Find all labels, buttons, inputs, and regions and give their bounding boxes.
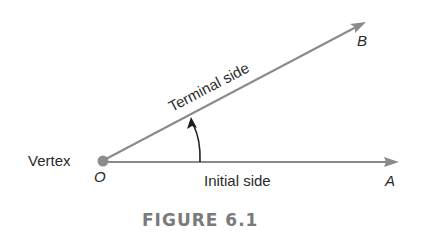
terminal-point-label: B xyxy=(357,32,367,49)
terminal-side-ray xyxy=(104,22,366,160)
arrowhead-a-icon xyxy=(384,157,399,167)
arc-arrowhead-icon xyxy=(187,117,197,129)
figure-caption: FIGURE 6.1 xyxy=(142,210,258,230)
vertex-label: Vertex xyxy=(28,152,71,169)
vertex-dot xyxy=(98,156,109,167)
angle-diagram: Vertex O Initial side A B Terminal side … xyxy=(0,0,426,240)
initial-side-ray xyxy=(104,157,399,167)
vertex-point-label: O xyxy=(94,168,106,185)
terminal-side-label: Terminal side xyxy=(166,59,252,115)
angle-arc xyxy=(187,117,200,162)
initial-point-label: A xyxy=(384,172,395,189)
initial-side-label: Initial side xyxy=(204,172,271,189)
